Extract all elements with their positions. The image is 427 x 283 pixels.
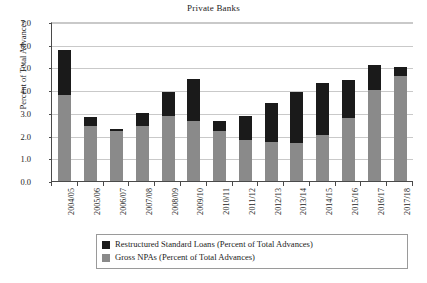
x-tick-mark — [386, 182, 387, 186]
bar-segment-gross-npa[interactable] — [136, 126, 149, 182]
y-tick-label: 2.0 — [0, 132, 31, 142]
x-tick-mark — [51, 182, 52, 186]
bar-segment-gross-npa[interactable] — [110, 131, 123, 182]
bar-segment-gross-npa[interactable] — [239, 140, 252, 182]
x-tick-mark — [412, 182, 413, 186]
bar-segment-gross-npa[interactable] — [187, 121, 200, 182]
gridline — [52, 23, 413, 24]
x-tick-mark — [232, 182, 233, 186]
bar-segment-gross-npa[interactable] — [342, 118, 355, 182]
y-tick-mark — [49, 114, 52, 115]
x-tick-label: 2017/18 — [403, 188, 412, 215]
x-tick-mark — [283, 182, 284, 186]
x-tick-mark — [77, 182, 78, 186]
bar-segment-restructured[interactable] — [265, 103, 278, 143]
x-tick-label: 2010/11 — [222, 188, 231, 215]
x-tick-label: 2007/08 — [145, 188, 154, 215]
legend-item: Restructured Standard Loans (Percent of … — [102, 238, 402, 251]
x-tick-mark — [154, 182, 155, 186]
gridline — [52, 46, 413, 47]
chart-figure: Private Banks Percent of Total Advances … — [0, 0, 427, 283]
y-tick-mark — [49, 46, 52, 47]
bar-segment-restructured[interactable] — [290, 92, 303, 143]
bar-segment-restructured[interactable] — [213, 121, 226, 131]
x-tick-label: 2004/05 — [67, 188, 76, 215]
x-axis-labels: 2004/052005/062006/072007/082008/092009/… — [51, 182, 413, 232]
x-tick-label: 2009/10 — [196, 188, 205, 215]
bar-segment-restructured[interactable] — [136, 113, 149, 127]
bar-segment-gross-npa[interactable] — [316, 135, 329, 182]
bar-segment-restructured[interactable] — [162, 92, 175, 116]
chart-title: Private Banks — [0, 3, 427, 13]
bar-segment-gross-npa[interactable] — [290, 143, 303, 182]
x-tick-label: 2013/14 — [299, 188, 308, 215]
gridline — [52, 159, 413, 160]
y-tick-label: 1.0 — [0, 154, 31, 164]
legend-swatch-gross-npa-icon — [102, 254, 110, 262]
y-tick-mark — [49, 91, 52, 92]
bar-segment-restructured[interactable] — [110, 129, 123, 131]
gridline — [52, 91, 413, 92]
bar-segment-gross-npa[interactable] — [162, 116, 175, 182]
bar-segment-gross-npa[interactable] — [368, 90, 381, 182]
x-tick-label: 2011/12 — [248, 188, 257, 215]
legend-item: Gross NPAs (Percent of Total Advances) — [102, 251, 402, 264]
x-tick-mark — [103, 182, 104, 186]
x-tick-mark — [309, 182, 310, 186]
y-tick-mark — [49, 68, 52, 69]
x-tick-label: 2006/07 — [119, 188, 128, 215]
y-tick-mark — [49, 159, 52, 160]
legend-label-restructured: Restructured Standard Loans (Percent of … — [115, 238, 313, 251]
x-tick-mark — [360, 182, 361, 186]
bar-segment-restructured[interactable] — [342, 80, 355, 119]
y-tick-mark — [49, 137, 52, 138]
x-tick-label: 2012/13 — [274, 188, 283, 215]
x-tick-label: 2016/17 — [377, 188, 386, 215]
y-tick-label: 5.0 — [0, 63, 31, 73]
y-tick-label: 0.0 — [0, 177, 31, 187]
gridline — [52, 68, 413, 69]
bar-segment-gross-npa[interactable] — [58, 95, 71, 182]
gridline — [52, 114, 413, 115]
y-tick-label: 3.0 — [0, 109, 31, 119]
legend-label-gross-npa: Gross NPAs (Percent of Total Advances) — [115, 251, 255, 264]
x-tick-mark — [128, 182, 129, 186]
y-tick-mark — [49, 23, 52, 24]
legend-swatch-restructured-icon — [102, 241, 110, 249]
y-tick-label: 7.0 — [0, 18, 31, 28]
bar-segment-restructured[interactable] — [368, 65, 381, 90]
y-tick-label: 6.0 — [0, 41, 31, 51]
bar-segment-restructured[interactable] — [84, 117, 97, 126]
bar-segment-restructured[interactable] — [239, 116, 252, 140]
bar-segment-gross-npa[interactable] — [213, 131, 226, 182]
x-tick-label: 2008/09 — [171, 188, 180, 215]
x-tick-label: 2015/16 — [351, 188, 360, 215]
x-tick-mark — [180, 182, 181, 186]
x-tick-mark — [206, 182, 207, 186]
x-tick-mark — [335, 182, 336, 186]
bar-segment-restructured[interactable] — [58, 50, 71, 94]
x-tick-label: 2014/15 — [325, 188, 334, 215]
gridline — [52, 137, 413, 138]
x-tick-mark — [257, 182, 258, 186]
bar-segment-gross-npa[interactable] — [84, 126, 97, 182]
plot-area: 0.01.02.03.04.05.06.07.0 — [51, 22, 413, 182]
chart-legend: Restructured Standard Loans (Percent of … — [96, 234, 408, 269]
x-tick-label: 2005/06 — [93, 188, 102, 215]
bar-segment-restructured[interactable] — [394, 67, 407, 76]
bar-segment-restructured[interactable] — [187, 79, 200, 121]
bar-segment-restructured[interactable] — [316, 83, 329, 135]
bar-segment-gross-npa[interactable] — [394, 76, 407, 182]
y-tick-label: 4.0 — [0, 86, 31, 96]
bar-segment-gross-npa[interactable] — [265, 142, 278, 182]
